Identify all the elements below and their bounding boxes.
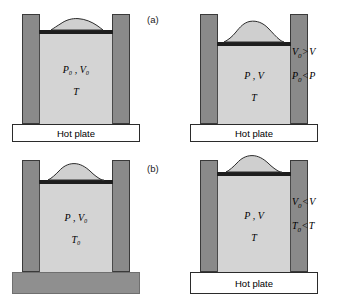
gas-region-b-final: P , V T xyxy=(217,176,291,272)
gas-state-t: T xyxy=(218,92,290,103)
relation-pressure: P0<P xyxy=(292,71,315,84)
gas-state-t: T xyxy=(218,232,290,243)
gas-state-t: T xyxy=(40,86,112,97)
relation-volume: V0>V xyxy=(292,47,315,60)
relation-volume: V0<V xyxy=(292,197,315,210)
relation-rhs: V xyxy=(309,196,315,207)
relation-rhs: P xyxy=(309,70,315,81)
relation-rhs: V xyxy=(309,46,315,57)
panel-label-b: (b) xyxy=(147,163,159,174)
relation-rhs: T xyxy=(309,220,315,231)
gas-state-t: T₀ xyxy=(40,234,112,245)
gas-state-pv: P , V xyxy=(218,70,290,81)
cold-plate-b-initial: Hot plate xyxy=(12,272,140,294)
gas-state-pv: P , V xyxy=(218,210,290,221)
hot-plate-a-final: Hot plate xyxy=(190,124,318,142)
apparatus-a-initial: Hot plate P₀ , V₀ T xyxy=(12,14,140,142)
panel-label-a: (a) xyxy=(147,14,159,25)
hot-plate-a-initial: Hot plate xyxy=(12,124,140,142)
hot-plate-label: Hot plate xyxy=(235,278,273,289)
apparatus-b-initial: Hot plate P , V₀ T₀ xyxy=(12,160,140,294)
hot-plate-label: Hot plate xyxy=(57,128,95,139)
relations-panel-a: V0>V P0<P xyxy=(292,47,315,95)
sand-pile-b-initial xyxy=(47,162,105,181)
cylinder-wall-left xyxy=(22,14,40,124)
gas-state-pv: P₀ , V₀ xyxy=(40,64,112,75)
relation-temperature: T0<T xyxy=(292,221,315,234)
cylinder-wall-left xyxy=(200,14,218,124)
relations-panel-b: V0<V T0<T xyxy=(292,197,315,245)
cylinder-wall-right xyxy=(112,14,130,124)
gas-region-a-initial: P₀ , V₀ T xyxy=(39,34,113,124)
sand-pile-b-final xyxy=(225,154,283,173)
relation-operator: < xyxy=(301,220,309,231)
hot-plate-label: Hot plate xyxy=(235,128,273,139)
gas-region-b-initial: P , V₀ T₀ xyxy=(39,184,113,272)
sand-pile-a-final xyxy=(223,20,285,43)
sand-pile-a-initial xyxy=(50,17,104,31)
hot-plate-b-final: Hot plate xyxy=(190,272,318,294)
gas-state-pv: P , V₀ xyxy=(40,212,112,223)
gas-law-figure: (a) Hot plate P₀ , V₀ T Hot plate xyxy=(0,0,346,300)
cylinder-wall-left xyxy=(200,160,218,272)
gas-region-a-final: P , V T xyxy=(217,46,291,124)
cylinder-wall-right xyxy=(112,160,130,272)
cylinder-wall-left xyxy=(22,160,40,272)
